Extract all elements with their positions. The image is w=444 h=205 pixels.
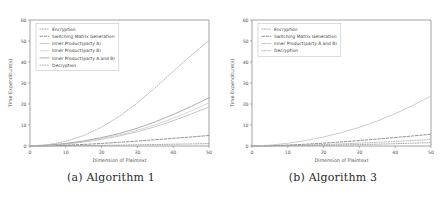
y-tick-label: 30 [243, 81, 249, 86]
x-tick-label: 40 [392, 150, 398, 155]
legend-label-3: Inner Product(party B) [52, 48, 101, 53]
legend-label-4: Inner Product(party A and B) [52, 56, 115, 61]
x-tick-label: 10 [285, 150, 291, 155]
x-tick-label: 0 [29, 150, 32, 155]
legend-label-2: Inner Product(party A and B) [274, 41, 337, 46]
y-axis-title: Time Expenditure(s) [230, 59, 235, 109]
x-tick-label: 40 [170, 150, 176, 155]
subfigure-a: 010203040506001020304050Dimension of Pla… [0, 0, 222, 205]
legend-label-0: Encryption [274, 27, 298, 32]
y-tick-label: 0 [24, 144, 27, 149]
legend-label-3: Decryption [274, 48, 298, 53]
subfigure-b-caption: (b) Algorithm 3 [289, 171, 377, 184]
line-chart-algorithm-3: 010203040506001020304050Dimension of Pla… [222, 0, 444, 170]
y-tick-label: 40 [243, 60, 249, 65]
legend-label-5: Decryption [52, 63, 76, 68]
subfigure-b: 010203040506001020304050Dimension of Pla… [222, 0, 444, 205]
legend-label-1: Switching Matrix Generation [274, 34, 337, 39]
chart-b-wrapper: 010203040506001020304050Dimension of Pla… [222, 0, 444, 170]
y-tick-label: 0 [246, 144, 249, 149]
y-tick-label: 20 [243, 102, 249, 107]
chart-a-wrapper: 010203040506001020304050Dimension of Pla… [0, 0, 222, 170]
x-tick-label: 50 [428, 150, 434, 155]
y-tick-label: 10 [243, 123, 249, 128]
x-tick-label: 50 [206, 150, 212, 155]
legend-label-0: Encryption [52, 27, 76, 32]
x-tick-label: 10 [63, 150, 69, 155]
y-tick-label: 30 [21, 81, 27, 86]
legend-box [258, 24, 341, 57]
x-axis-title: Dimension of Plaintext [314, 158, 368, 163]
x-tick-label: 20 [99, 150, 105, 155]
legend-box [36, 24, 119, 71]
y-tick-label: 60 [21, 18, 27, 23]
line-chart-algorithm-1: 010203040506001020304050Dimension of Pla… [0, 0, 222, 170]
x-tick-label: 0 [251, 150, 254, 155]
y-tick-label: 50 [243, 39, 249, 44]
y-tick-label: 50 [21, 39, 27, 44]
x-tick-label: 30 [356, 150, 362, 155]
legend-label-1: Switching Matrix Generation [52, 34, 115, 39]
x-tick-label: 30 [134, 150, 140, 155]
y-tick-label: 20 [21, 102, 27, 107]
figure-container: 010203040506001020304050Dimension of Pla… [0, 0, 444, 205]
x-tick-label: 20 [321, 150, 327, 155]
y-tick-label: 60 [243, 18, 249, 23]
y-tick-label: 10 [21, 123, 27, 128]
y-axis-title: Time Expenditure(s) [8, 59, 13, 109]
y-tick-label: 40 [21, 60, 27, 65]
subfigure-a-caption: (a) Algorithm 1 [67, 171, 155, 184]
x-axis-title: Dimension of Plaintext [92, 158, 146, 163]
legend-label-2: Inner Product(party A) [52, 41, 101, 46]
